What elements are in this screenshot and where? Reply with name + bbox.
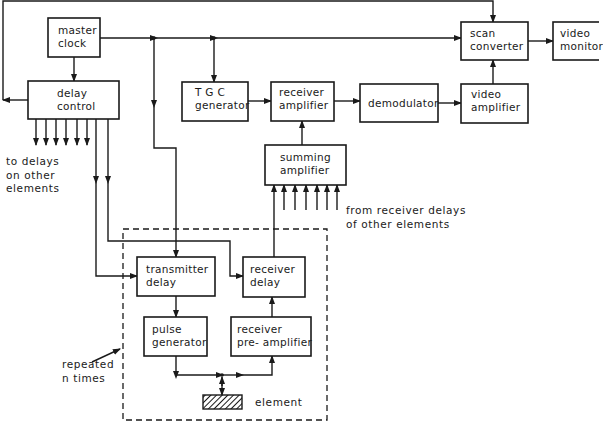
demodulator-label: demodulator (368, 97, 439, 110)
bus-to-preamp (240, 356, 272, 375)
receiver-amplifier-label: receiver amplifier (279, 86, 328, 112)
element-label: element (255, 395, 303, 410)
receiver-delay-label: receiver delay (250, 263, 295, 289)
summing-amplifier-label: summing amplifier (280, 151, 331, 177)
to-delays-note: to delays on other elements (6, 155, 60, 196)
delay-to-transmitter (96, 180, 137, 276)
master-clock-label: master clock (58, 24, 97, 50)
from-receiver-delays-note: from receiver delays of other elements (346, 204, 466, 231)
clock-to-transmitter (154, 104, 176, 257)
pulse-generator-label: pulse generator (152, 323, 207, 349)
receiver-preamplifier-label: receiver pre- amplifier (237, 323, 312, 349)
video-amplifier-label: video amplifier (471, 88, 520, 114)
delay-control-label: delay control (57, 87, 96, 113)
scan-converter-label: scan converter (470, 27, 523, 53)
transmitter-delay-label: transmitter delay (146, 263, 208, 289)
repeated-note: repeated n times (62, 358, 114, 385)
video-monitor-label: video monitor (560, 27, 603, 53)
tgc-generator-label: T G C generator (195, 86, 250, 112)
delay-outputs-to-other-elements (36, 119, 87, 145)
transducer-element (203, 395, 242, 409)
